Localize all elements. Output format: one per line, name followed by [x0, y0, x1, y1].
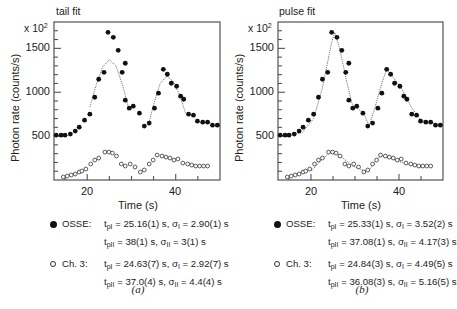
fit-curve: [148, 76, 186, 126]
osse-data-point: [365, 124, 370, 129]
open-circle-icon: [274, 261, 280, 267]
osse-data-point: [77, 125, 82, 130]
ch3-data-point: [409, 162, 413, 166]
ch3-data-point: [347, 164, 351, 168]
filled-circle-icon: [50, 221, 57, 228]
legend-entry-osse: OSSE:tpI = 25.16(1) s, σI = 2.90(1) s: [50, 216, 229, 234]
ch3-data-point: [111, 151, 115, 155]
ch3-data-point: [142, 168, 146, 172]
osse-data-point: [361, 111, 366, 116]
ch3-data-point: [371, 162, 375, 166]
ch3-data-point: [334, 151, 338, 155]
ch3-data-point: [417, 164, 421, 168]
osse-data-point: [418, 119, 423, 124]
panel-a-caption: (a): [118, 283, 158, 295]
osse-data-point: [428, 120, 433, 125]
osse-data-point: [306, 118, 311, 123]
panel-b-ytick-1500: 1500: [240, 41, 274, 53]
osse-data-point: [137, 111, 142, 116]
osse-data-point: [152, 106, 157, 111]
osse-data-point: [96, 77, 101, 82]
osse-data-point: [297, 129, 302, 134]
ch3-data-point: [317, 158, 321, 162]
osse-data-point: [397, 84, 402, 89]
osse-data-point: [82, 118, 87, 123]
ch3-data-point: [89, 162, 93, 166]
plot-frame: [278, 22, 443, 180]
osse-data-point: [433, 123, 438, 128]
panel-a-ytick-500: 500: [16, 129, 50, 141]
open-circle-icon: [50, 261, 56, 267]
ch3-data-point: [151, 158, 155, 162]
osse-data-point: [346, 98, 351, 103]
osse-data-point: [147, 121, 152, 126]
plot-panel-b: [278, 22, 443, 180]
ch3-data-point: [308, 167, 312, 171]
panel-b-ytick-500: 500: [240, 129, 274, 141]
osse-data-point: [116, 48, 121, 53]
ch3-data-point: [297, 172, 301, 176]
osse-data-point: [123, 98, 128, 103]
ch3-data-point: [304, 169, 308, 173]
osse-data-point: [354, 104, 359, 109]
ch3-data-point: [115, 154, 119, 158]
osse-data-point: [87, 112, 92, 117]
osse-data-point: [325, 70, 330, 75]
ch3-data-point: [65, 174, 69, 178]
ch3-data-point: [103, 150, 107, 154]
ch3-data-point: [352, 162, 356, 166]
osse-data-point: [405, 97, 410, 102]
fit-curve: [280, 33, 440, 136]
osse-data-point: [156, 91, 161, 96]
osse-data-point: [120, 70, 125, 75]
ch3-data-point: [168, 156, 172, 160]
osse-data-point: [370, 121, 375, 126]
panel-a-xlabel: Time (s): [98, 199, 178, 211]
osse-data-point: [379, 91, 384, 96]
osse-data-point: [414, 113, 419, 118]
osse-data-point: [174, 84, 179, 89]
multiplier-exponent: 2: [268, 22, 272, 29]
osse-data-point: [123, 61, 128, 66]
osse-data-point: [215, 123, 220, 128]
ch3-data-point: [366, 168, 370, 172]
osse-data-point: [181, 97, 186, 102]
ch3-data-point: [429, 164, 433, 168]
osse-data-point: [384, 67, 389, 72]
ch3-data-point: [69, 173, 73, 177]
multiplier-base: x 10: [24, 22, 44, 34]
ch3-data-point: [172, 158, 176, 162]
ch3-data-point: [387, 155, 391, 159]
panel-a-title: tail fit: [56, 5, 81, 17]
panel-b-xlabel: Time (s): [321, 199, 401, 211]
osse-data-point: [346, 61, 351, 66]
osse-data-point: [388, 72, 393, 77]
panel-a-multiplier: x 102: [24, 22, 48, 34]
ch3-data-point: [313, 162, 317, 166]
osse-data-point: [392, 81, 397, 86]
osse-data-point: [106, 30, 111, 35]
panel-b-multiplier: x 102: [248, 22, 272, 34]
osse-data-point: [191, 113, 196, 118]
panel-b-xtick-20: 20: [296, 185, 326, 197]
ch3-data-point: [395, 158, 399, 162]
ch3-data-point: [343, 162, 347, 166]
ch3-data-point: [186, 162, 190, 166]
osse-data-point: [195, 119, 200, 124]
ch3-data-point: [119, 162, 123, 166]
legend-entry-ch3: Ch. 3:tpI = 24.84(3) s, σI = 4.49(5) s: [274, 256, 457, 274]
osse-data-point: [287, 133, 292, 138]
osse-data-point: [161, 67, 166, 72]
osse-data-point: [311, 112, 316, 117]
osse-data-point: [335, 35, 340, 40]
plot-panel-a: [54, 22, 220, 180]
osse-data-point: [73, 129, 78, 134]
panel-a-ytick-1000: 1000: [16, 85, 50, 97]
osse-data-point: [186, 112, 191, 117]
panel-a-xtick-40: 40: [160, 185, 190, 197]
osse-data-point: [438, 123, 443, 128]
ch3-data-point: [285, 175, 289, 179]
osse-data-point: [320, 77, 325, 82]
panel-b-title: pulse fit: [279, 5, 315, 17]
osse-data-point: [200, 120, 205, 125]
